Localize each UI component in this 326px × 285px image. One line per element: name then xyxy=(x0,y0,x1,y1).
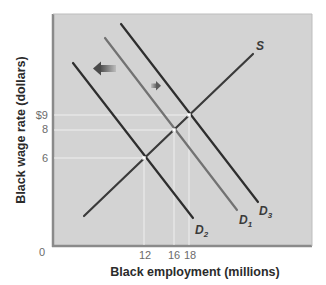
x-tick-16: 16 xyxy=(168,249,180,261)
supply-demand-chart: S D2 D1 D3 $9 8 6 0 12 16 18 Black emplo… xyxy=(0,0,326,285)
x-axis-title: Black employment (millions) xyxy=(110,265,279,279)
equilibrium-point-12-6 xyxy=(142,156,145,159)
y-tick-6: 6 xyxy=(42,152,48,164)
equilibrium-point-16-8 xyxy=(172,128,175,131)
origin-label: 0 xyxy=(39,246,45,258)
x-tick-12: 12 xyxy=(139,249,151,261)
x-tick-18: 18 xyxy=(184,249,196,261)
equilibrium-point-18-9 xyxy=(187,113,190,116)
y-tick-9: $9 xyxy=(36,109,48,121)
y-axis-title: Black wage rate (dollars) xyxy=(14,56,28,203)
supply-label: S xyxy=(256,39,264,53)
y-tick-8: 8 xyxy=(42,123,48,135)
